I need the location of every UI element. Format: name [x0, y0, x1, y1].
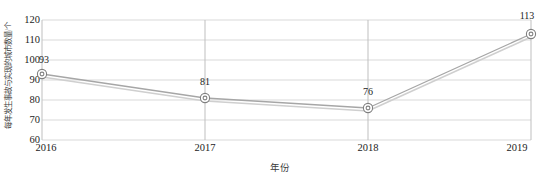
y-tick-label: 120 — [14, 15, 40, 26]
y-tick-label: 80 — [14, 95, 40, 106]
data-point-label: 93 — [39, 55, 49, 65]
plot-area: 938176113 — [42, 20, 531, 140]
plot-svg — [42, 20, 531, 140]
data-point-label: 113 — [520, 11, 535, 21]
y-tick-label: 90 — [14, 75, 40, 86]
grid-lines — [42, 20, 531, 140]
x-tick-label: 2017 — [195, 143, 216, 154]
y-tick-label: 100 — [14, 55, 40, 66]
data-point-label: 76 — [363, 87, 373, 97]
data-point-marker-inner — [529, 32, 533, 36]
data-point-marker-inner — [203, 96, 207, 100]
x-tick-label: 2019 — [507, 143, 528, 154]
x-axis-tick-labels: 2016201720182019 — [0, 143, 560, 159]
chart-screenshot: 每年发生事故与实现的城市数量/个 60708090100110120 93817… — [0, 0, 560, 180]
y-tick-label: 110 — [14, 35, 40, 46]
x-tick-label: 2018 — [358, 143, 379, 154]
x-tick-label: 2016 — [36, 143, 57, 154]
data-point-marker-inner — [40, 72, 44, 76]
data-point-marker-inner — [366, 106, 370, 110]
y-tick-label: 70 — [14, 115, 40, 126]
x-axis-title-text: 年份 — [270, 163, 290, 173]
x-axis-title: 年份 — [0, 160, 560, 174]
data-point-label: 81 — [200, 77, 210, 87]
